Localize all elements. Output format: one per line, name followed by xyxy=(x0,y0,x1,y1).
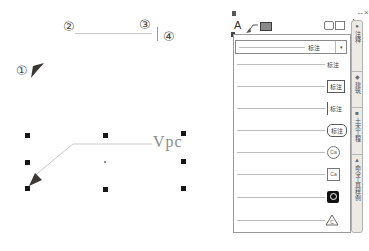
leader-preview-line xyxy=(237,130,325,131)
palette-tabstrip: ● 注释 ◆ 建筑 ■ 土木工程 ▲ 命令工具样例 xyxy=(351,20,363,233)
autohide-icon[interactable]: ↔ xyxy=(356,9,364,17)
tool-row-slot[interactable] xyxy=(235,187,347,207)
ring-icon xyxy=(330,193,337,200)
grip-handle[interactable] xyxy=(181,186,186,191)
leader-arrowhead-icon xyxy=(29,173,42,186)
palette-tab[interactable]: ▲ 命令工具样例 xyxy=(352,155,362,232)
leader-preview-line xyxy=(237,152,325,153)
close-icon[interactable]: × xyxy=(364,9,369,17)
tool-label: 标注 xyxy=(327,124,347,137)
leader-preview-line xyxy=(237,197,325,198)
leader-preview-line xyxy=(239,47,305,48)
tab-icon: ■ xyxy=(355,110,359,117)
rounded-square-icon[interactable] xyxy=(324,21,334,30)
leader-preview-line xyxy=(237,64,325,65)
combo-label: 标注 xyxy=(308,43,320,52)
tool-row-triangle[interactable]: C xyxy=(235,210,347,230)
leader-preview-line xyxy=(237,86,325,87)
tool-row-pill[interactable]: 标注 xyxy=(235,120,347,140)
tool-label: 标注 xyxy=(327,60,339,69)
tool-row-square[interactable]: Ca xyxy=(235,164,347,184)
tool-row-plain[interactable]: 标注 xyxy=(235,54,347,74)
arrowhead-icon xyxy=(31,63,44,78)
tool-label: 标注 xyxy=(327,102,342,115)
palette-grip-icon xyxy=(232,11,236,16)
chevron-down-icon[interactable]: ▾ xyxy=(335,41,346,53)
tool-row-tick[interactable]: 标注 xyxy=(235,98,347,118)
palette-tab[interactable]: ◆ 建筑 xyxy=(352,72,362,108)
tool-label: Ca xyxy=(327,168,340,181)
tab-icon: ▲ xyxy=(354,157,360,164)
leader-preview-line xyxy=(237,174,325,175)
palette-tool-list: 标注 ▾ 标注 标注 标注 标注 Ca Ca xyxy=(233,34,351,233)
tab-label: 建筑 xyxy=(353,82,362,94)
palette-tab[interactable]: ● 注释 xyxy=(352,21,362,72)
tool-label: C xyxy=(325,219,339,225)
grip-handle[interactable] xyxy=(181,159,186,164)
tab-label: 注释 xyxy=(353,31,362,43)
palette-tab[interactable]: ■ 土木工程 xyxy=(352,108,362,155)
tool-row-circle[interactable]: Ca xyxy=(235,142,347,162)
tool-palette: ↔ × A 标注 ▾ 标注 标注 标注 xyxy=(231,8,369,234)
mleader-tool-icon[interactable] xyxy=(246,22,259,33)
tab-label: 土木工程 xyxy=(353,118,362,142)
center-point xyxy=(104,161,106,163)
callout-1: ① xyxy=(16,64,28,77)
grip-handle[interactable] xyxy=(103,133,108,138)
callout-2: ② xyxy=(63,20,75,33)
drawing-canvas: ① ② ③ ④ Vpc xyxy=(0,0,231,251)
tab-icon: ● xyxy=(355,23,359,30)
style-combobox[interactable]: 标注 ▾ xyxy=(235,40,347,54)
tool-row-boxed[interactable]: 标注 xyxy=(235,76,347,96)
square-icon[interactable] xyxy=(335,21,345,30)
triangle-balloon-icon: C xyxy=(325,214,339,226)
tool-label: 标注 xyxy=(327,80,345,93)
slot-balloon-icon xyxy=(327,191,339,203)
palette-titlebar: ↔ × xyxy=(231,8,369,18)
text-tool-icon[interactable]: A xyxy=(234,19,241,31)
leader-polyline xyxy=(26,140,156,190)
leader-preview-line xyxy=(237,220,325,221)
callout-4: ④ xyxy=(163,30,175,43)
palette-toolbar: A xyxy=(232,18,368,34)
landing-tick xyxy=(157,27,158,41)
image-tool-icon[interactable] xyxy=(260,22,272,31)
dimension-line xyxy=(75,33,152,34)
tab-label: 命令工具样例 xyxy=(353,165,362,201)
callout-3: ③ xyxy=(139,18,151,31)
grip-handle[interactable] xyxy=(25,133,30,138)
grip-handle[interactable] xyxy=(25,160,30,165)
grip-handle[interactable] xyxy=(103,187,108,192)
grip-handle[interactable] xyxy=(25,186,30,191)
grip-handle[interactable] xyxy=(181,131,186,136)
tool-label: Ca xyxy=(327,146,340,159)
leader-text: Vpc xyxy=(153,133,183,151)
tab-icon: ◆ xyxy=(355,74,360,81)
leader-preview-line xyxy=(237,108,325,109)
